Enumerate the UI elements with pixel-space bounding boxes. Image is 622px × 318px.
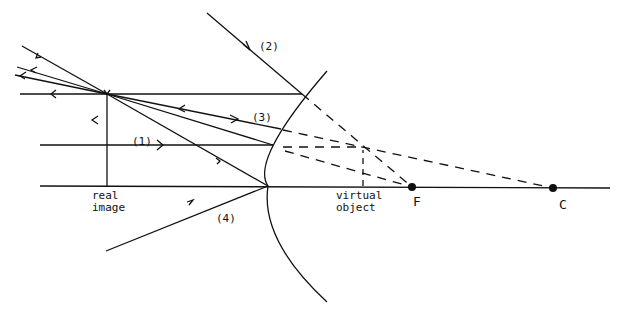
ray-label-2: (2) xyxy=(259,41,279,53)
principal-axis xyxy=(40,186,610,188)
arrowhead-icon xyxy=(20,72,26,79)
arrowhead-icon xyxy=(243,41,250,50)
ray-4-out xyxy=(22,46,107,94)
ray-label-1: (1) xyxy=(132,136,152,148)
arrowhead-icon xyxy=(187,200,193,205)
ray-diagram xyxy=(0,0,622,318)
ray-4-extension xyxy=(285,151,412,187)
virtual-object-label: virtual object xyxy=(336,190,382,214)
ray-label-4: (4) xyxy=(216,213,236,225)
arrowhead-icon xyxy=(92,116,98,124)
center-point-dot xyxy=(549,184,557,192)
ray-3-extension xyxy=(283,130,553,188)
center-point-label: C xyxy=(559,199,567,211)
focal-point-label: F xyxy=(413,196,421,208)
ray-4-incoming xyxy=(106,186,268,251)
ray-1-out xyxy=(17,67,107,94)
ray-label-3: (3) xyxy=(252,112,272,124)
focal-point-dot xyxy=(408,183,416,191)
ray-2-incoming xyxy=(207,13,302,94)
real-image-label: real image xyxy=(92,190,125,214)
ray-2-extension xyxy=(302,94,412,187)
ray-3-out xyxy=(15,75,107,94)
